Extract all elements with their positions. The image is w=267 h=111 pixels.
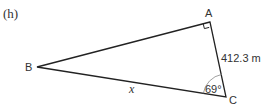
right-angle-marker	[203, 24, 209, 29]
triangle-diagram: (h) A B C 412.3 m x 69°	[0, 0, 267, 111]
vertex-label-a: A	[205, 7, 213, 19]
side-bc-variable: x	[128, 82, 135, 96]
vertex-label-c: C	[229, 94, 237, 106]
vertex-label-b: B	[25, 61, 32, 73]
side-ac-length: 412.3 m	[221, 52, 261, 64]
part-label: (h)	[3, 6, 18, 21]
angle-c-label: 69°	[205, 83, 222, 95]
